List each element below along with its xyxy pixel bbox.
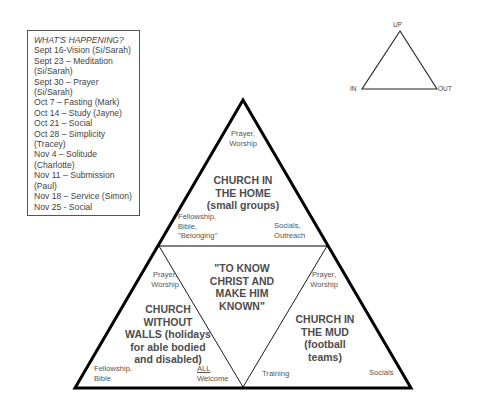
small-triangle — [362, 31, 437, 89]
title-line: for able bodied — [118, 341, 218, 354]
home-fellowship-label: Fellowship, Bible, "Belonging" — [178, 212, 217, 241]
label-line: Fellowship, — [178, 212, 217, 222]
label-line: Welcome — [197, 374, 229, 384]
label-line: "Belonging" — [178, 231, 217, 241]
label-out: OUT — [438, 85, 452, 92]
title-line: WITHOUT — [118, 316, 218, 329]
title-line: WALLS (holidays — [118, 328, 218, 341]
title-line: THE HOME — [193, 187, 293, 200]
label-line: Worship — [220, 139, 266, 149]
mud-socials-label: Socials — [369, 368, 393, 378]
label-line: Prayer, — [303, 270, 345, 280]
mission-line: MAKE HIM — [190, 287, 294, 300]
label-line: Socials, — [274, 221, 305, 231]
label-line: Outreach — [274, 231, 305, 241]
church-in-the-mud-title: CHURCH IN THE MUD (football teams) — [285, 313, 365, 363]
title-line: (small groups) — [193, 199, 293, 212]
home-socials-label: Socials, Outreach — [274, 221, 305, 240]
label-up: UP — [393, 21, 402, 28]
home-prayer-worship-label: Prayer, Worship — [220, 129, 266, 148]
title-line: THE MUD — [285, 326, 365, 339]
walls-fellowship-label: Fellowship, Bible — [94, 364, 132, 383]
title-line: CHURCH IN — [285, 313, 365, 326]
walls-all-welcome-label: ALL Welcome — [197, 364, 229, 383]
label-line: Worship — [303, 280, 345, 290]
church-in-the-home-title: CHURCH IN THE HOME (small groups) — [193, 174, 293, 212]
church-without-walls-title: CHURCH WITHOUT WALLS (holidays for able … — [118, 303, 218, 366]
mud-prayer-worship-label: Prayer, Worship — [303, 270, 345, 289]
title-line: CHURCH IN — [193, 174, 293, 187]
mission-line: "TO KNOW — [190, 262, 294, 275]
label-line: Bible — [94, 374, 132, 384]
label-line: ALL — [197, 364, 229, 374]
label-line: Worship — [143, 280, 187, 290]
title-line: teams) — [285, 351, 365, 364]
title-line: (football — [285, 338, 365, 351]
mission-line: CHRIST AND — [190, 275, 294, 288]
label-line: Bible, — [178, 222, 217, 232]
label-in: IN — [350, 85, 357, 92]
label-line: Prayer, — [143, 270, 187, 280]
label-line: Fellowship, — [94, 364, 132, 374]
label-line: Prayer, — [220, 129, 266, 139]
mud-training-label: Training — [262, 369, 289, 379]
walls-prayer-worship-label: Prayer, Worship — [143, 270, 187, 289]
title-line: CHURCH — [118, 303, 218, 316]
